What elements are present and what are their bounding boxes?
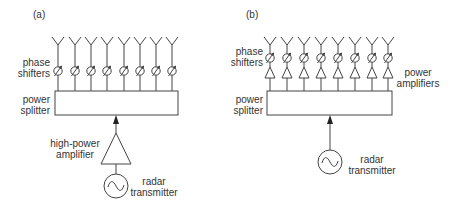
power-amplifiers-label: power amplifiers [394,67,442,89]
antenna-array-b [264,37,394,91]
array-element [118,37,130,91]
high-power-amplifier-label: high-power amplifier [40,138,110,160]
phase-shifters-label-b: phase shifters [212,46,263,68]
panel-b-tag: (b) [246,9,258,20]
power-splitter-label-a: power splitter [0,94,50,116]
radar-transmitter-label-a: radar transmitter [123,176,185,198]
array-element [69,37,81,91]
array-element [52,37,64,91]
array-element [315,37,327,91]
antenna-array-a [52,37,178,91]
power-splitter-box-b [267,91,392,115]
array-element [382,37,394,91]
arrowhead-icon [327,115,333,124]
panel-a-tag: (a) [33,9,45,20]
phase-shifters-label-a: phase shifters [0,57,50,79]
power-splitter-box-a [55,91,178,115]
array-element [150,37,162,91]
panel-a [52,37,178,198]
array-element [264,37,276,91]
array-element [332,37,344,91]
array-element [298,37,310,91]
array-element [101,37,113,91]
array-element [366,37,378,91]
power-splitter-label-b: power splitter [212,94,263,116]
array-element [349,37,361,91]
radar-transmitter-label-b: radar transmitter [341,154,403,176]
array-element [166,37,178,91]
arrowhead-icon [113,115,119,124]
array-element [134,37,146,91]
array-element [281,37,293,91]
array-element [85,37,97,91]
